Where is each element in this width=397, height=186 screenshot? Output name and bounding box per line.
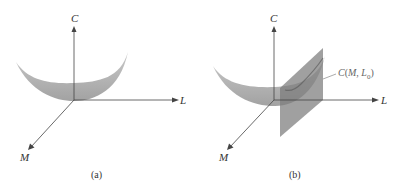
annotation-leader [323, 74, 336, 79]
l-axis-arrowhead [172, 98, 179, 103]
c-axis-label: C [71, 13, 78, 24]
c-axis-label: C [270, 13, 277, 24]
m-axis-label: M [219, 152, 228, 163]
c-axis-arrowhead [72, 26, 77, 32]
annotation-prefix: C [338, 67, 345, 78]
slicing-plane [280, 48, 323, 137]
panel-a: C L M (a) [0, 0, 198, 186]
m-axis [230, 100, 274, 147]
l-axis-label: L [381, 95, 387, 106]
caption-b: (b) [289, 170, 301, 180]
l-axis-label: L [180, 95, 186, 106]
bowl-surface [16, 52, 128, 101]
annotation-close: ) [370, 67, 373, 78]
l-axis-arrowhead [372, 98, 379, 103]
curve-annotation: C(M, L0) [338, 68, 374, 81]
surface-plot-a [0, 0, 198, 186]
m-axis-label: M [20, 152, 29, 163]
caption-a: (a) [91, 170, 102, 180]
m-axis [31, 100, 74, 147]
panel-b: C L M C(M, L0) (b) [197, 0, 395, 186]
c-axis-arrowhead [272, 26, 277, 32]
